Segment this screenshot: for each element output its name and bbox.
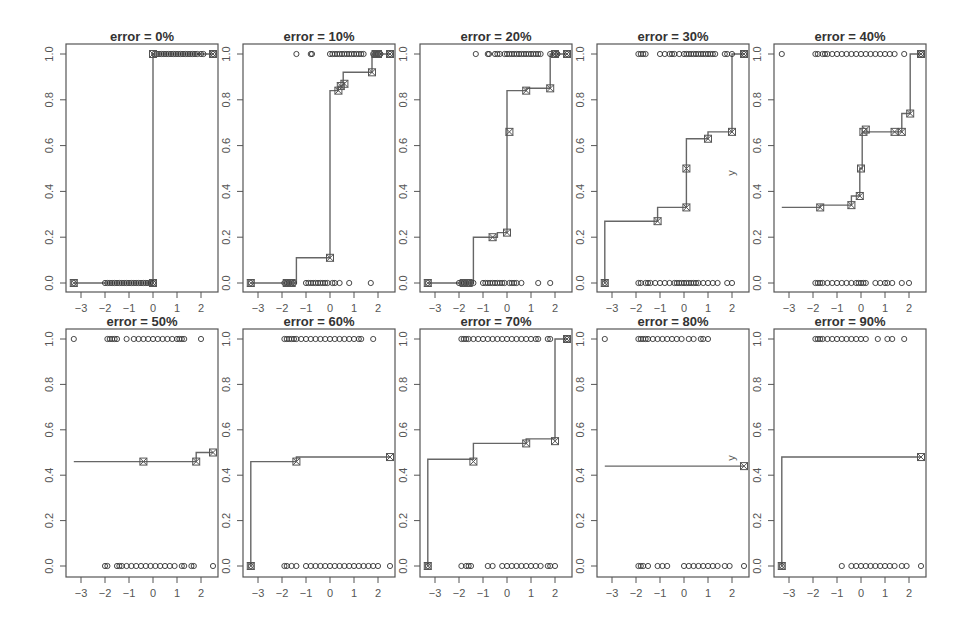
x-tick-label: 2 <box>552 587 558 599</box>
x-axis: −3−2−1012 <box>429 292 558 314</box>
data-points <box>248 336 392 568</box>
y-tick-label: 0.0 <box>574 275 586 290</box>
y-tick-label: 0.4 <box>397 468 409 483</box>
small-multiples-step-plots: error = 0%0.00.20.40.60.81.0−3−2−1012err… <box>0 0 960 629</box>
x-tick-label: 1 <box>174 587 180 599</box>
x-tick-label: −2 <box>276 302 289 314</box>
y-tick-label: 1.0 <box>751 46 763 61</box>
x-tick-label: −3 <box>252 587 265 599</box>
x-tick-label: 2 <box>729 587 735 599</box>
step-line <box>428 339 567 566</box>
y-tick-label: 0.2 <box>220 513 232 528</box>
x-tick-label: −1 <box>654 302 667 314</box>
x-tick-label: 1 <box>174 302 180 314</box>
fitted-markers <box>601 51 747 287</box>
x-tick-label: −3 <box>75 587 88 599</box>
panel-title: error = 40% <box>814 29 886 44</box>
x-tick-label: −3 <box>429 302 442 314</box>
fitted-markers <box>247 51 393 287</box>
data-points <box>248 51 392 285</box>
y-tick-label: 0.0 <box>751 558 763 573</box>
x-tick-label: −3 <box>606 302 619 314</box>
x-tick-label: 1 <box>705 587 711 599</box>
y-tick-label: 0.0 <box>751 275 763 290</box>
y-tick-label: 1.0 <box>397 331 409 346</box>
x-tick-label: 0 <box>150 587 156 599</box>
x-tick-label: 2 <box>375 302 381 314</box>
y-axis: 0.00.20.40.60.81.0 <box>574 46 597 290</box>
y-axis-label: y <box>725 455 737 461</box>
x-tick-label: −1 <box>477 587 490 599</box>
panel-0: error = 0%0.00.20.40.60.81.0−3−2−1012 <box>43 29 218 314</box>
data-points <box>779 336 923 568</box>
x-tick-label: 2 <box>729 302 735 314</box>
y-tick-label: 0.8 <box>220 92 232 107</box>
fitted-markers <box>778 454 924 570</box>
x-tick-label: −1 <box>123 587 136 599</box>
step-line <box>74 453 213 462</box>
y-tick-label: 0.0 <box>220 558 232 573</box>
y-tick-label: 0.2 <box>397 230 409 245</box>
x-tick-label: 1 <box>528 587 534 599</box>
y-tick-label: 0.6 <box>43 138 55 153</box>
y-tick-label: 0.8 <box>397 92 409 107</box>
x-tick-label: 0 <box>327 587 333 599</box>
x-tick-label: −2 <box>99 302 112 314</box>
y-tick-label: 0.8 <box>43 377 55 392</box>
y-axis-label: y <box>725 170 737 176</box>
x-tick-label: −2 <box>630 587 643 599</box>
plot-frame <box>774 44 926 292</box>
y-tick-label: 0.0 <box>574 558 586 573</box>
x-tick-label: 1 <box>882 587 888 599</box>
y-axis: 0.00.20.40.60.81.0 <box>574 331 597 573</box>
x-tick-label: 2 <box>198 302 204 314</box>
panel-3: error = 30%0.00.20.40.60.81.0−3−2−1012y <box>574 29 749 314</box>
panel-6: error = 60%0.00.20.40.60.81.0−3−2−1012 <box>220 314 395 599</box>
x-tick-label: 2 <box>906 302 912 314</box>
fitted-markers <box>247 454 393 570</box>
plot-frame <box>66 44 218 292</box>
x-tick-label: 0 <box>150 302 156 314</box>
y-tick-label: 0.4 <box>220 184 232 199</box>
y-tick-label: 0.2 <box>751 513 763 528</box>
x-axis: −3−2−1012 <box>252 577 381 599</box>
y-tick-label: 0.4 <box>43 468 55 483</box>
y-tick-label: 0.6 <box>43 422 55 437</box>
x-tick-label: 0 <box>681 302 687 314</box>
x-tick-label: 0 <box>504 302 510 314</box>
x-tick-label: −1 <box>300 302 313 314</box>
x-tick-label: −1 <box>300 587 313 599</box>
y-tick-label: 0.0 <box>43 275 55 290</box>
x-tick-label: 1 <box>528 302 534 314</box>
x-tick-label: 1 <box>351 587 357 599</box>
y-tick-label: 0.8 <box>220 377 232 392</box>
y-tick-label: 0.8 <box>574 377 586 392</box>
figure: error = 0%0.00.20.40.60.81.0−3−2−1012err… <box>0 0 960 629</box>
plot-frame <box>420 329 572 577</box>
x-tick-label: −2 <box>276 587 289 599</box>
x-tick-label: −2 <box>807 302 820 314</box>
y-tick-label: 1.0 <box>43 331 55 346</box>
x-tick-label: −1 <box>477 302 490 314</box>
y-tick-label: 1.0 <box>751 331 763 346</box>
y-tick-label: 0.0 <box>397 275 409 290</box>
y-axis: 0.00.20.40.60.81.0 <box>220 331 243 573</box>
panel-title: error = 80% <box>637 314 709 329</box>
y-tick-label: 0.4 <box>751 184 763 199</box>
y-axis: 0.00.20.40.60.81.0 <box>220 46 243 290</box>
y-tick-label: 0.6 <box>397 422 409 437</box>
x-tick-label: −3 <box>429 587 442 599</box>
x-tick-label: −3 <box>75 302 88 314</box>
y-tick-label: 1.0 <box>397 46 409 61</box>
plot-frame <box>597 329 749 577</box>
x-tick-label: −1 <box>831 587 844 599</box>
x-axis: −3−2−1012 <box>606 577 735 599</box>
y-tick-label: 0.6 <box>397 138 409 153</box>
y-tick-label: 1.0 <box>43 46 55 61</box>
x-tick-label: 2 <box>198 587 204 599</box>
x-tick-label: −3 <box>783 302 796 314</box>
y-tick-label: 0.4 <box>43 184 55 199</box>
plot-frame <box>774 329 926 577</box>
y-tick-label: 0.2 <box>220 230 232 245</box>
data-points <box>71 336 215 568</box>
